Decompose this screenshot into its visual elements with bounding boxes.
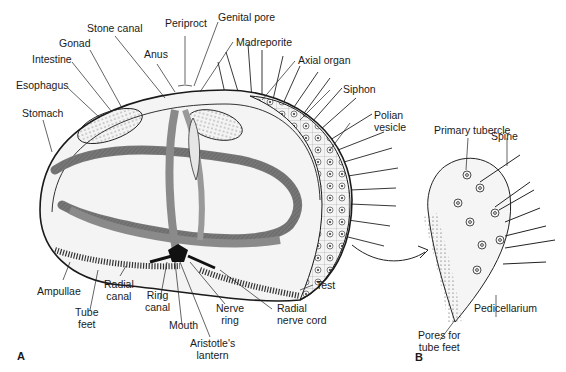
label-periproct: Periproct: [165, 18, 207, 30]
label-ring-canal: Ring canal: [145, 290, 170, 313]
label-spine: Spine: [491, 131, 518, 143]
label-anus: Anus: [144, 49, 168, 61]
label-ampullae: Ampullae: [37, 286, 81, 298]
label-radial-nerve-cord: Radial nerve cord: [277, 303, 327, 326]
label-tube-feet: Tube feet: [75, 307, 99, 330]
label-radial-canal: Radial canal: [104, 279, 134, 302]
label-pedicellarium: Pedicellarium: [474, 303, 537, 315]
label-siphon: Siphon: [343, 84, 376, 96]
label-stone-canal: Stone canal: [87, 23, 142, 35]
label-axial-organ: Axial organ: [298, 55, 351, 67]
label-intestine: Intestine: [32, 54, 72, 66]
label-mouth: Mouth: [169, 320, 198, 332]
panel-label-a: A: [17, 350, 25, 362]
label-genital-pore: Genital pore: [218, 12, 275, 24]
label-aristotles-lantern: Aristotle's lantern: [190, 338, 235, 361]
label-gonad: Gonad: [59, 38, 91, 50]
label-madreporite: Madreporite: [236, 37, 292, 49]
label-nerve-ring: Nerve ring: [216, 303, 244, 326]
magnify-arrow: [352, 245, 425, 261]
label-test: Test: [316, 280, 335, 292]
label-esophagus: Esophagus: [16, 80, 69, 92]
label-pores-for-tube-feet: Pores for tube feet: [418, 330, 461, 353]
panel-label-b: B: [415, 351, 423, 363]
label-polian-vesicle: Polian vesicle: [374, 110, 406, 133]
label-stomach: Stomach: [22, 108, 63, 120]
